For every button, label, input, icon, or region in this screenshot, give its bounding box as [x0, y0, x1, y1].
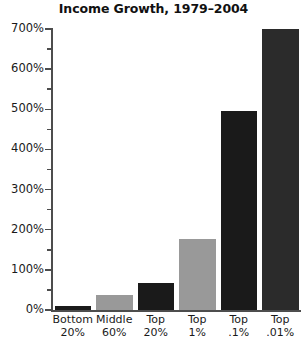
- y-tick-label: 500%: [11, 103, 44, 115]
- bar: [179, 239, 216, 310]
- y-tick-label: 400%: [11, 143, 44, 155]
- bar: [96, 295, 133, 310]
- x-axis-line: [51, 310, 301, 312]
- bar: [221, 111, 258, 311]
- x-axis-label-line: Top: [254, 314, 308, 327]
- y-tick-minor: [47, 169, 51, 171]
- y-tick-minor: [47, 88, 51, 90]
- y-tick-minor: [47, 209, 51, 211]
- y-tick-major: [45, 309, 51, 311]
- y-tick-label: 100%: [11, 264, 44, 276]
- y-tick-minor: [47, 129, 51, 131]
- y-tick-major: [45, 149, 51, 151]
- bar: [55, 306, 92, 310]
- y-tick-major: [45, 189, 51, 191]
- bar: [138, 283, 175, 310]
- x-axis-label-line: .01%: [254, 327, 308, 340]
- income-growth-bar-chart: Income Growth, 1979–2004 0%100%200%300%4…: [0, 0, 307, 357]
- y-tick-minor: [47, 48, 51, 50]
- y-tick-minor: [47, 289, 51, 291]
- y-tick-label: 600%: [11, 63, 44, 75]
- y-tick-major: [45, 229, 51, 231]
- y-tick-label: 200%: [11, 224, 44, 236]
- y-tick-label: 300%: [11, 184, 44, 196]
- y-tick-major: [45, 28, 51, 30]
- bar: [262, 29, 299, 310]
- y-tick-label: 0%: [26, 304, 44, 316]
- y-tick-major: [45, 269, 51, 271]
- plot-area: [52, 29, 301, 310]
- y-tick-minor: [47, 249, 51, 251]
- y-tick-major: [45, 109, 51, 111]
- chart-title: Income Growth, 1979–2004: [0, 1, 307, 16]
- x-axis-label: Top.01%: [254, 314, 308, 339]
- y-tick-label: 700%: [11, 23, 44, 35]
- y-tick-major: [45, 68, 51, 70]
